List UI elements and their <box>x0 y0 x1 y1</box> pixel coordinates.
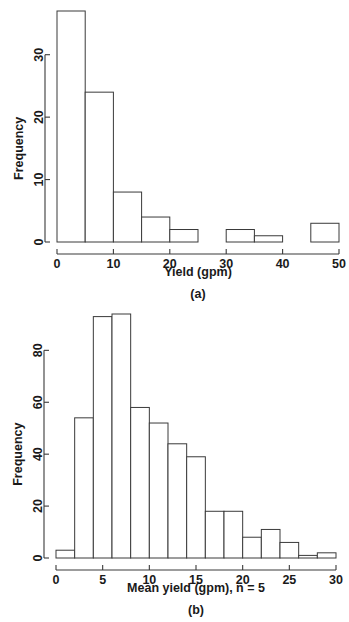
x-tick-label: 0 <box>53 573 60 587</box>
plot-area-b: 051015202530Mean yield (gpm), n = 502040… <box>11 314 343 617</box>
y-tick-label: 30 <box>32 48 46 62</box>
histogram-bar <box>75 418 94 558</box>
histogram-bar <box>170 230 198 242</box>
x-tick-label: 40 <box>276 257 290 271</box>
histogram-bar <box>254 236 282 242</box>
histogram-bar <box>56 550 75 558</box>
histogram-chart-b: 051015202530Mean yield (gpm), n = 502040… <box>0 300 349 622</box>
histogram-bar <box>113 192 141 242</box>
x-tick-label: 30 <box>329 573 343 587</box>
histogram-bar <box>311 223 339 242</box>
panel-caption: (b) <box>188 603 204 617</box>
histogram-bar <box>93 317 112 558</box>
y-axis-title: Frequency <box>12 117 26 180</box>
y-tick-label: 80 <box>31 343 45 357</box>
histogram-bar <box>299 555 318 558</box>
x-tick-label: 10 <box>106 257 120 271</box>
histogram-bar <box>85 92 113 242</box>
x-tick-label: 5 <box>99 573 106 587</box>
histogram-panel-a: 01020304050Yield (gpm)0102030Frequency(a… <box>0 0 349 305</box>
y-tick-label: 40 <box>31 447 45 461</box>
histogram-bar <box>224 511 243 558</box>
histogram-bar <box>243 537 262 558</box>
histogram-bar <box>317 553 336 558</box>
y-axis: 0102030Frequency <box>12 48 50 246</box>
x-tick-label: 0 <box>54 257 61 271</box>
bars-group <box>56 314 336 558</box>
y-tick-label: 10 <box>32 173 46 187</box>
histogram-bar <box>261 529 280 558</box>
x-axis: 051015202530Mean yield (gpm), n = 5 <box>53 565 343 595</box>
panel-caption: (a) <box>190 287 205 301</box>
histogram-bar <box>280 542 299 558</box>
y-axis-title: Frequency <box>11 423 25 486</box>
y-tick-label: 0 <box>31 554 45 561</box>
y-tick-label: 20 <box>32 110 46 124</box>
histogram-bar <box>57 11 85 242</box>
histogram-bar <box>131 407 150 558</box>
plot-area-a: 01020304050Yield (gpm)0102030Frequency(a… <box>12 11 346 301</box>
histogram-panel-b: 051015202530Mean yield (gpm), n = 502040… <box>0 300 349 622</box>
histogram-bar <box>142 217 170 242</box>
y-tick-label: 60 <box>31 395 45 409</box>
x-axis-title: Yield (gpm) <box>164 265 232 279</box>
histogram-bar <box>187 457 206 558</box>
histogram-bar <box>149 423 168 558</box>
histogram-chart-a: 01020304050Yield (gpm)0102030Frequency(a… <box>0 0 349 305</box>
x-axis: 01020304050Yield (gpm) <box>54 249 346 279</box>
x-axis-title: Mean yield (gpm), n = 5 <box>127 581 265 595</box>
histogram-bar <box>205 511 224 558</box>
histogram-bar <box>112 314 131 558</box>
x-tick-label: 50 <box>332 257 346 271</box>
bars-group <box>57 11 339 242</box>
y-tick-label: 20 <box>31 499 45 513</box>
y-tick-label: 0 <box>32 238 46 245</box>
y-axis: 020406080Frequency <box>11 343 49 561</box>
x-tick-label: 25 <box>282 573 296 587</box>
histogram-bar <box>168 444 187 558</box>
histogram-bar <box>226 230 254 242</box>
